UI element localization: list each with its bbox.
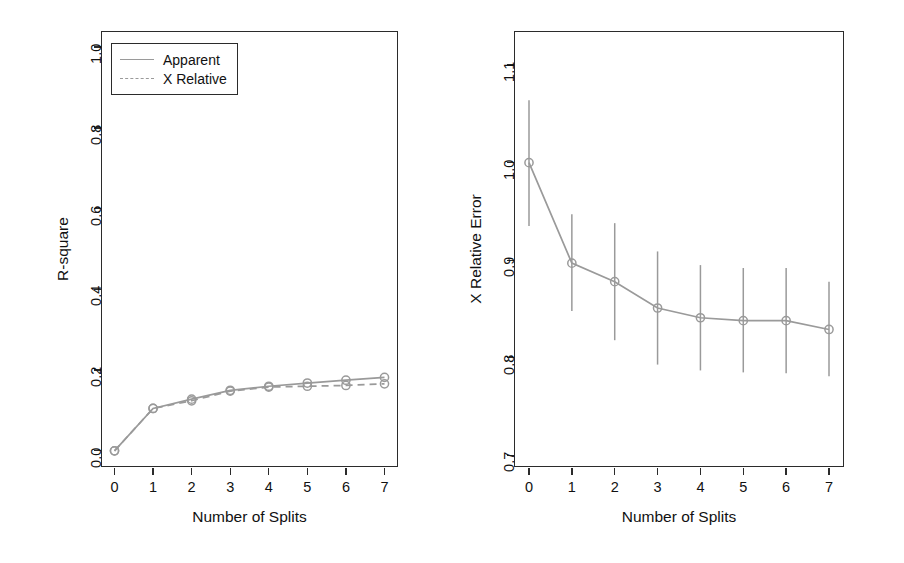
x-tick-label: 0 (512, 479, 546, 495)
x-tick-mark (785, 468, 786, 475)
y-tick-label: 1.1 (501, 62, 517, 82)
x-tick-mark (700, 468, 701, 475)
x-tick-label: 5 (290, 479, 324, 495)
x-tick-mark (307, 468, 308, 475)
y-tick-label: 0.7 (501, 452, 517, 472)
y-tick-label: 0.6 (88, 205, 104, 225)
chart-panel-right: 0.70.80.91.01.101234567 X Relative Error… (452, 0, 904, 563)
x-tick-mark (657, 468, 658, 475)
x-tick-mark (828, 468, 829, 475)
x-tick-label: 5 (726, 479, 760, 495)
x-axis-title-right: Number of Splits (514, 508, 844, 526)
x-tick-mark (528, 468, 529, 475)
y-tick-label: 0.4 (88, 286, 104, 306)
y-tick-label: 1.0 (88, 44, 104, 64)
legend-item-apparent: Apparent (120, 50, 227, 69)
x-tick-mark (743, 468, 744, 475)
x-tick-mark (152, 468, 153, 475)
figure-root: 0.00.20.40.60.81.001234567 R-square Numb… (0, 0, 904, 563)
x-tick-mark (384, 468, 385, 475)
y-tick-label: 0.2 (88, 367, 104, 387)
chart-panel-left: 0.00.20.40.60.81.001234567 R-square Numb… (0, 0, 452, 563)
legend-item-x-relative: X Relative (120, 69, 227, 88)
x-tick-label: 4 (683, 479, 717, 495)
y-tick-label: 0.8 (88, 124, 104, 144)
x-tick-mark (345, 468, 346, 475)
x-tick-label: 4 (252, 479, 286, 495)
y-tick-label: 0.0 (88, 447, 104, 467)
x-tick-mark (571, 468, 572, 475)
x-tick-label: 3 (213, 479, 247, 495)
series-line-x-relative-error (529, 163, 829, 330)
x-tick-mark (614, 468, 615, 475)
x-axis-title-left: Number of Splits (101, 508, 398, 526)
x-tick-label: 1 (136, 479, 170, 495)
legend-key-solid-line-icon (120, 54, 154, 66)
error-bars (529, 100, 829, 376)
legend-label-x-relative: X Relative (163, 71, 227, 87)
x-tick-label: 7 (812, 479, 846, 495)
x-tick-label: 7 (368, 479, 402, 495)
x-tick-mark (230, 468, 231, 475)
x-tick-mark (191, 468, 192, 475)
series-line-x-relative (115, 384, 385, 451)
legend-key-dashed-line-icon (120, 73, 154, 85)
y-tick-label: 0.8 (501, 354, 517, 374)
series-markers-x-relative (110, 380, 388, 455)
x-tick-label: 2 (175, 479, 209, 495)
x-tick-label: 2 (598, 479, 632, 495)
x-tick-mark (114, 468, 115, 475)
x-tick-label: 1 (555, 479, 589, 495)
x-tick-label: 6 (769, 479, 803, 495)
x-tick-mark (268, 468, 269, 475)
y-axis-title-left: R-square (54, 217, 72, 281)
x-tick-label: 3 (641, 479, 675, 495)
legend-label-apparent: Apparent (163, 52, 220, 68)
y-tick-label: 1.0 (501, 159, 517, 179)
y-axis-title-right: X Relative Error (467, 194, 485, 303)
x-tick-label: 6 (329, 479, 363, 495)
y-tick-label: 0.9 (501, 257, 517, 277)
x-tick-label: 0 (98, 479, 132, 495)
legend: Apparent X Relative (111, 43, 238, 95)
